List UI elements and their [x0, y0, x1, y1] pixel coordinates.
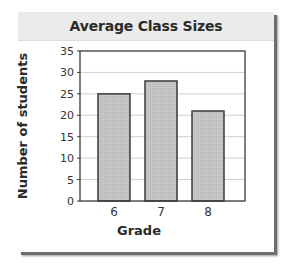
y-tick-label: 5 [67, 174, 74, 187]
y-tick-label: 20 [60, 109, 74, 122]
bar-grade-8 [192, 111, 224, 201]
y-axis-label: Number of students [15, 53, 30, 199]
x-axis-label: Grade [117, 223, 161, 238]
y-tick-label: 15 [60, 131, 74, 144]
y-tick-label: 10 [60, 152, 74, 165]
bar-grade-7 [145, 81, 177, 201]
y-tick-label: 30 [60, 66, 74, 79]
x-tick-label: 7 [157, 205, 165, 219]
y-tick-label: 25 [60, 88, 74, 101]
y-tick-label: 35 [60, 45, 74, 58]
y-tick-label: 0 [67, 195, 74, 208]
x-tick-label: 8 [204, 205, 212, 219]
bar-grade-6 [98, 94, 130, 201]
x-tick-label: 6 [110, 205, 118, 219]
